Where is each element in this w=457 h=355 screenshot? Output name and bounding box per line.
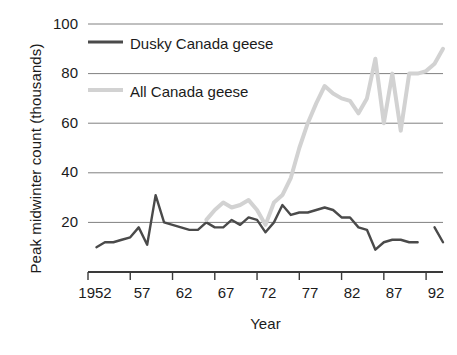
- series-group: [96, 49, 443, 250]
- legend-swatch-group: [88, 42, 123, 90]
- series-line-0: [435, 227, 443, 242]
- chart-canvas: Peak midwinter count (thousands) Year 10…: [0, 0, 457, 355]
- x-tick-marks: [88, 272, 426, 280]
- axis-group: [88, 272, 443, 280]
- series-line-1: [206, 49, 443, 225]
- plot-area: [0, 0, 457, 355]
- gridlines-group: [88, 24, 443, 222]
